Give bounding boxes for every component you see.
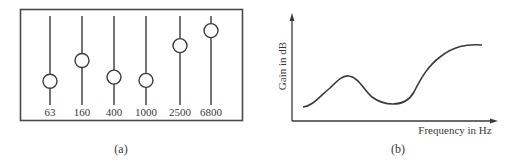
- equalizer-figure: 63160400100025006800 Gain in dB Frequenc…: [0, 0, 508, 164]
- gain-curve: [303, 45, 482, 107]
- slider-knob[interactable]: [75, 54, 89, 68]
- x-axis-arrow-icon: [490, 119, 498, 124]
- slider-160[interactable]: 160: [74, 16, 91, 118]
- slider-knob[interactable]: [139, 73, 153, 87]
- slider-400[interactable]: 400: [106, 16, 123, 118]
- slider-63[interactable]: 63: [43, 16, 57, 118]
- slider-frequency-label: 400: [106, 106, 123, 118]
- slider-frequency-label: 160: [74, 106, 91, 118]
- slider-2500[interactable]: 2500: [169, 16, 192, 118]
- caption-b: (b): [391, 142, 405, 157]
- x-axis-label: Frequency in Hz: [418, 124, 491, 136]
- y-axis-label: Gain in dB: [276, 42, 288, 90]
- caption-a: (a): [114, 142, 127, 157]
- slider-frequency-label: 6800: [200, 106, 223, 118]
- slider-knob[interactable]: [173, 39, 187, 53]
- slider-frequency-label: 1000: [135, 106, 158, 118]
- slider-group: 63160400100025006800: [43, 16, 223, 118]
- slider-1000[interactable]: 1000: [135, 16, 158, 118]
- slider-6800[interactable]: 6800: [200, 16, 223, 118]
- figure-canvas: 63160400100025006800 Gain in dB Frequenc…: [0, 0, 508, 164]
- y-axis-arrow-icon: [290, 13, 295, 21]
- equalizer-panel: 63160400100025006800: [21, 10, 243, 121]
- slider-knob[interactable]: [107, 70, 121, 84]
- gain-response-panel: Gain in dB Frequency in Hz: [276, 13, 498, 136]
- slider-frequency-label: 63: [45, 106, 57, 118]
- slider-knob[interactable]: [43, 74, 57, 88]
- slider-frequency-label: 2500: [169, 106, 192, 118]
- slider-knob[interactable]: [204, 24, 218, 38]
